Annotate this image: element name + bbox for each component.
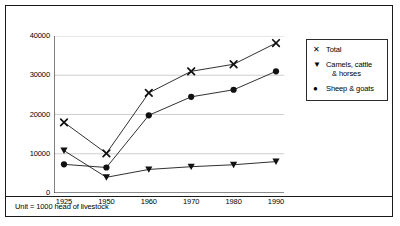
- data-point-triangle-down: [103, 174, 110, 180]
- legend-label-cont: & horses: [326, 69, 372, 78]
- circle-marker-icon: ●: [313, 84, 326, 93]
- legend-label: Sheep & goats: [326, 84, 374, 93]
- legend-item: ●Sheep & goats: [313, 84, 387, 93]
- y-tick-label: 30000: [8, 71, 50, 79]
- data-point-circle: [103, 164, 109, 170]
- legend-item: ✕Total: [313, 45, 387, 54]
- unit-note: Unit = 1000 head of livestock: [15, 202, 109, 211]
- chart-frame: 010000200003000040000 192519501960197019…: [5, 5, 393, 217]
- data-point-circle: [146, 112, 152, 118]
- data-point-circle: [231, 87, 237, 93]
- data-point-x: [273, 40, 280, 47]
- series-line-triangle-down: [64, 151, 276, 178]
- x-tick-label: 1990: [256, 198, 296, 206]
- chart-legend: ✕Total▼Camels, cattle& horses●Sheep & go…: [306, 39, 388, 101]
- data-point-x: [146, 90, 153, 97]
- series-line-circle: [64, 71, 276, 167]
- triangle-down-marker-icon: ▼: [313, 60, 326, 69]
- series-line-x: [64, 43, 276, 153]
- data-point-circle: [61, 161, 67, 167]
- y-tick-label: 10000: [8, 150, 50, 158]
- legend-item: ▼Camels, cattle& horses: [313, 60, 387, 78]
- y-tick-label: 40000: [8, 32, 50, 40]
- x-tick-label: 1980: [214, 198, 254, 206]
- legend-label: Camels, cattle: [326, 60, 372, 69]
- y-tick-label: 20000: [8, 111, 50, 119]
- data-point-x: [61, 119, 68, 126]
- data-point-triangle-down: [60, 148, 67, 154]
- x-tick-label: 1970: [171, 198, 211, 206]
- plot-area: [54, 36, 284, 193]
- footer-separator: [6, 196, 392, 197]
- chart-canvas: [54, 36, 284, 193]
- data-point-circle: [188, 94, 194, 100]
- x-marker-icon: ✕: [313, 45, 326, 54]
- legend-label: Total: [326, 45, 341, 54]
- data-point-circle: [273, 68, 279, 74]
- x-tick-label: 1960: [129, 198, 169, 206]
